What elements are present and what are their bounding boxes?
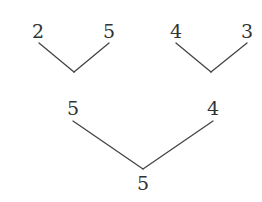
reduction-tree-diagram: 2 5 4 3 5 4 5 [0,0,262,202]
tree-edge [176,43,211,72]
root-node: 5 [137,174,149,193]
mid-node-left: 5 [67,99,79,118]
tree-edge [74,43,109,72]
leaf-node-4: 3 [241,22,253,41]
leaf-node-3: 4 [170,22,182,41]
leaf-node-1: 2 [32,22,44,41]
tree-edge [73,121,143,169]
tree-edge [39,43,74,72]
tree-edge [143,121,213,169]
tree-edge [211,43,247,72]
mid-node-right: 4 [207,99,219,118]
leaf-node-2: 5 [103,22,115,41]
